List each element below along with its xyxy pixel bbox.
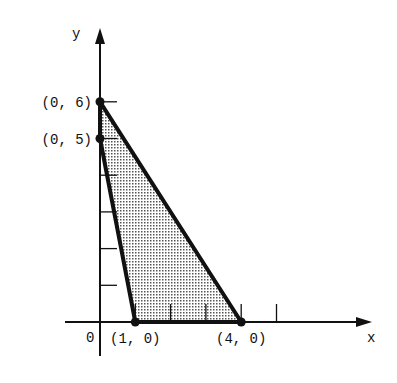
vertex-point [96,134,105,143]
vertex-label: (1, 0) [110,331,160,347]
vertex-point [131,318,140,327]
y-axis-arrow [95,28,105,44]
vertex-label: (0, 5) [42,132,92,148]
lp-diagram: x y 0 (0, 6)(0, 5)(1, 0)(4, 0) [0,0,397,383]
x-axis-arrow [356,317,372,327]
y-axis-label: y [72,26,80,42]
vertex-point [96,97,105,106]
vertex-label: (4, 0) [216,331,266,347]
vertex-point [237,318,246,327]
x-axis-label: x [367,330,375,346]
vertex-label: (0, 6) [42,95,92,111]
origin-label: 0 [86,330,94,346]
